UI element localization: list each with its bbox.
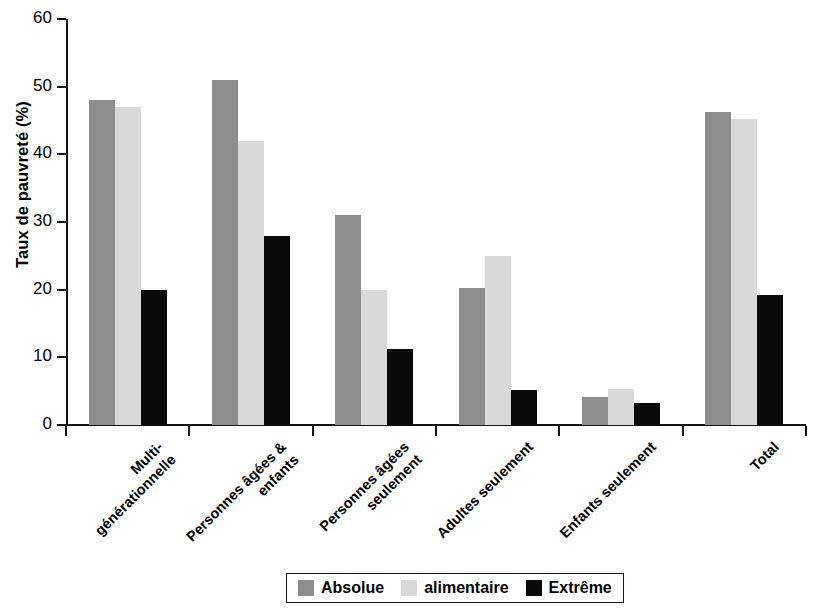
bar bbox=[264, 236, 290, 425]
y-axis-tick bbox=[57, 153, 66, 155]
legend-entry: Extrême bbox=[526, 579, 612, 597]
legend-swatch-icon bbox=[401, 580, 417, 596]
y-axis-tick-label: 0 bbox=[12, 415, 52, 432]
bar bbox=[757, 295, 783, 425]
chart-legend: AbsoluealimentaireExtrême bbox=[286, 573, 624, 603]
y-axis-tick bbox=[57, 356, 66, 358]
x-axis-tick bbox=[682, 426, 684, 436]
y-axis-tick-label: 50 bbox=[12, 77, 52, 94]
legend-label: Extrême bbox=[549, 579, 612, 597]
y-axis-tick bbox=[57, 86, 66, 88]
bar bbox=[238, 141, 264, 425]
bar bbox=[361, 290, 387, 425]
x-axis-tick bbox=[312, 426, 314, 436]
bar bbox=[459, 288, 485, 425]
legend-label: alimentaire bbox=[424, 579, 508, 597]
y-axis-tick-label: 20 bbox=[12, 280, 52, 297]
bar-chart: Taux de pauvreté (%) 0102030405060 Multi… bbox=[0, 0, 814, 608]
legend-label: Absolue bbox=[321, 579, 384, 597]
x-axis-tick bbox=[188, 426, 190, 436]
legend-swatch-icon bbox=[526, 580, 542, 596]
y-axis-tick bbox=[57, 221, 66, 223]
y-axis-title: Taux de pauvreté (%) bbox=[13, 70, 32, 300]
bar bbox=[608, 389, 634, 425]
legend-entry: alimentaire bbox=[401, 579, 508, 597]
bar bbox=[115, 107, 141, 425]
bar bbox=[212, 80, 238, 425]
y-axis-tick bbox=[57, 289, 66, 291]
y-axis-tick-label: 30 bbox=[12, 212, 52, 229]
bar bbox=[141, 290, 167, 425]
x-axis-tick bbox=[435, 426, 437, 436]
bar bbox=[582, 397, 608, 425]
bar bbox=[485, 256, 511, 425]
bar bbox=[335, 215, 361, 425]
x-axis-tick bbox=[805, 426, 807, 436]
x-axis-tick bbox=[558, 426, 560, 436]
y-axis-tick bbox=[57, 18, 66, 20]
y-axis-tick-label: 10 bbox=[12, 347, 52, 364]
bar bbox=[511, 390, 537, 425]
bar bbox=[89, 100, 115, 425]
x-axis-tick bbox=[65, 426, 67, 436]
legend-swatch-icon bbox=[298, 580, 314, 596]
bars-layer bbox=[66, 19, 806, 425]
bar bbox=[387, 349, 413, 425]
y-axis-tick-label: 40 bbox=[12, 144, 52, 161]
bar bbox=[634, 403, 660, 425]
legend-entry: Absolue bbox=[298, 579, 384, 597]
bar bbox=[705, 112, 731, 425]
bar bbox=[731, 119, 757, 425]
y-axis-tick-label: 60 bbox=[12, 9, 52, 26]
